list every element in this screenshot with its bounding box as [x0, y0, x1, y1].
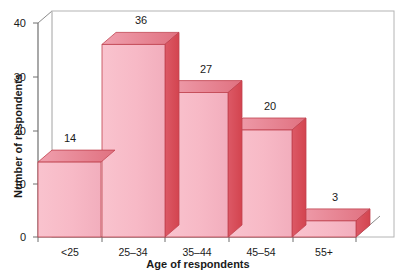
bar-value-label-55plus: 3 [315, 192, 355, 203]
bar-value-label-under-25: 14 [50, 133, 90, 144]
bar-value-label-45-54: 20 [250, 101, 290, 112]
x-axis-title: Age of respondents [0, 259, 396, 270]
y-axis-ticks [33, 23, 38, 237]
bar-value-label-25-34: 36 [121, 15, 161, 26]
y-tick-label-40: 40 [4, 18, 26, 29]
bar-value-label-35-44: 27 [186, 64, 226, 75]
x-tick-label-25-34: 25–34 [98, 247, 168, 258]
x-tick-label-55plus: 55+ [289, 247, 359, 258]
y-tick-label-0: 0 [4, 232, 26, 243]
x-axis-ticks [38, 237, 356, 242]
x-tick-label-45-54: 45–54 [226, 247, 296, 258]
bar-25-34 [102, 32, 179, 237]
y-axis-title: Number of respondents [13, 74, 24, 198]
x-tick-label-under-25: <25 [35, 247, 105, 258]
bar-chart: 40 30 20 10 0 Number of respondents <25 … [0, 0, 396, 270]
x-tick-label-35-44: 35–44 [162, 247, 232, 258]
